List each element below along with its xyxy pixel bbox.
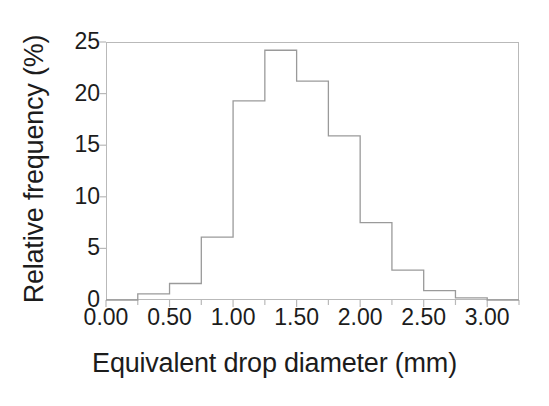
x-axis-tick-labels: 0.000.501.001.502.002.503.00: [0, 306, 549, 336]
y-tick-label: 5: [54, 236, 100, 259]
y-tick-label: 10: [54, 185, 100, 208]
plot-area: [106, 42, 519, 300]
x-tick-label: 3.00: [447, 306, 527, 329]
y-tick-label: 15: [54, 133, 100, 156]
x-axis-title: Equivalent drop diameter (mm): [0, 348, 549, 379]
y-axis-tick-marks: [99, 42, 106, 248]
y-tick-label: 25: [54, 30, 100, 53]
y-axis-tick-labels: 0510152025: [44, 0, 100, 406]
y-tick-label: 20: [54, 82, 100, 105]
histogram-figure: Relative frequency (%) 0510152025 0.000.…: [0, 0, 549, 406]
